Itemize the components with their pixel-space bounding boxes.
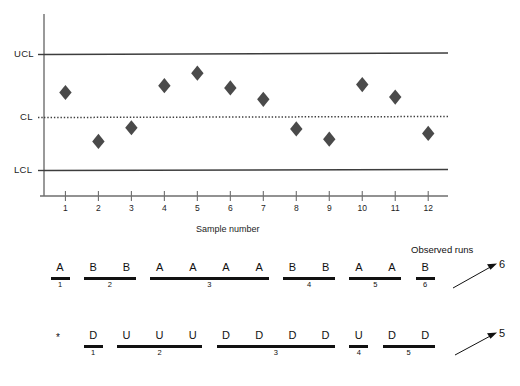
ucl-label: UCL [14,48,34,59]
data-point-marker [356,77,368,92]
runs-about-median-row: ABBAAAABBAAB 123456 Observed runs 6 [0,255,520,305]
ucl-line [44,53,448,55]
data-point-marker [191,66,203,81]
data-point-series [59,66,434,149]
data-point-marker [125,120,137,135]
observed-runs-arrow-bottom [0,325,520,375]
data-point-marker [323,132,335,147]
x-tick-label: 11 [386,203,404,213]
x-tick-label: 6 [221,203,239,213]
x-tick-label: 12 [419,203,437,213]
data-point-marker [224,80,236,95]
x-tick-label: 3 [122,203,140,213]
x-tick-label: 4 [155,203,173,213]
observed-runs-arrow-top [0,255,520,305]
observed-runs-count-up-down: 5 [499,327,505,339]
observed-runs-heading: Observed runs [411,244,473,255]
figure-root: UCL CL LCL 123456789101112 Sample number… [0,0,520,386]
data-point-marker [257,92,269,107]
x-axis-title: Sample number [196,224,260,234]
data-point-marker [158,78,170,93]
lcl-label: LCL [14,164,32,175]
data-point-marker [422,126,434,141]
data-point-marker [290,121,302,136]
cl-label: CL [20,111,33,122]
data-point-marker [59,85,71,100]
lcl-line [44,170,448,171]
x-tick-label: 10 [353,203,371,213]
observed-runs-count-median: 6 [499,258,505,270]
runs-up-and-down-row: * DUUUDDDDUDD 12345 5 [0,325,520,375]
x-tick-label: 2 [89,203,107,213]
x-tick-label: 5 [188,203,206,213]
x-tick-label: 7 [254,203,272,213]
x-tick-label: 1 [56,203,74,213]
control-chart: UCL CL LCL 123456789101112 Sample number [0,0,520,240]
data-point-marker [389,89,401,104]
data-point-marker [92,134,104,149]
x-tick-label: 9 [320,203,338,213]
cl-line [44,117,448,118]
x-tick-label: 8 [287,203,305,213]
